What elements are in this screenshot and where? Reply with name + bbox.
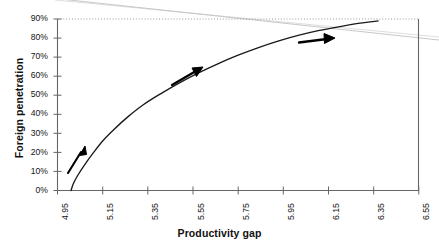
direction-arrow-1 — [68, 146, 87, 173]
x-tick-label-5-15: 5.15 — [105, 203, 115, 220]
x-tick-label-5-35: 5.35 — [150, 203, 160, 220]
scan-artifact-line-2 — [55, 0, 439, 37]
x-tick-label-6-55: 6.55 — [421, 203, 431, 220]
direction-arrows — [68, 34, 335, 174]
x-axis-title: Productivity gap — [0, 227, 439, 239]
data-series-line — [71, 21, 378, 191]
x-tick-label-6-15: 6.15 — [331, 203, 341, 220]
x-tick-label-5-95: 5.95 — [286, 203, 296, 220]
direction-arrow-3 — [299, 34, 335, 44]
x-tick-label-5-55: 5.55 — [196, 203, 206, 220]
x-tick-label-5-75: 5.75 — [241, 203, 251, 220]
x-tick-label-6-35: 6.35 — [376, 203, 386, 220]
y-axis-title: Foreign penetration — [13, 28, 25, 188]
scan-artifact-line — [42, 0, 439, 40]
chart-figure: 90% 80% 70% 60% 50% 40% 30% 20% 10% 0% 4… — [0, 0, 439, 247]
y-tick-label-90: 90% — [14, 13, 48, 23]
direction-arrow-2 — [172, 67, 203, 85]
x-tick-label-4-95: 4.95 — [60, 203, 70, 220]
